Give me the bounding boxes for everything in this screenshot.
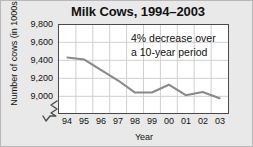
chart-figure: Milk Cows, 1994–2003 Number of cows (in … (0, 0, 253, 147)
x-axis-label: Year (58, 132, 230, 142)
chart-annotation: 4% decrease over a 10-year period (131, 31, 227, 59)
annotation-line-1: 4% decrease over (131, 31, 227, 45)
annotation-line-2: a 10-year period (131, 45, 227, 59)
x-tick-label: 03 (209, 116, 231, 126)
x-axis-tick-labels: 94 95 96 97 98 99 00 01 02 03 (1, 1, 253, 147)
